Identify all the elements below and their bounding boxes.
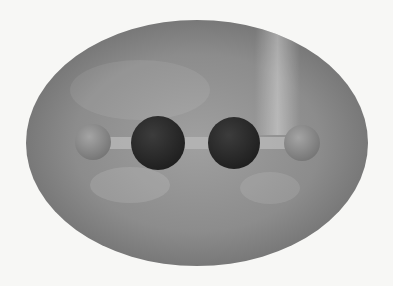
bond-axis [93, 137, 302, 149]
molecule-svg [0, 0, 393, 286]
molecule-figure: Acetylene molecule (H–C≡C–H) enclosed in… [0, 0, 393, 286]
carbon-atom-left [131, 116, 185, 170]
carbon-atom-right [208, 117, 260, 169]
hydrogen-atom-right [284, 125, 320, 161]
hydrogen-atom-left [75, 124, 111, 160]
